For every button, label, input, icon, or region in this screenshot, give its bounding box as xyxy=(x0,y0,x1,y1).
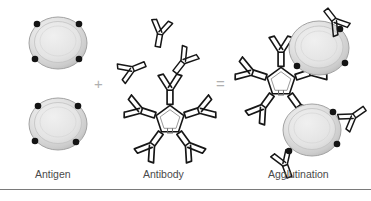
caption-antigen: Antigen xyxy=(35,168,71,180)
epitope-dot xyxy=(32,138,39,145)
epitope-dot xyxy=(76,21,83,28)
epitope-dot xyxy=(35,103,42,110)
epitope-dot xyxy=(334,141,341,148)
igm-pentamer xyxy=(123,74,218,164)
epitope-dot xyxy=(32,56,39,63)
epitope-dot xyxy=(330,109,337,116)
epitope-dot xyxy=(286,148,293,155)
bound-antibody xyxy=(336,100,370,133)
bottom-divider xyxy=(0,189,371,190)
agglutination-panel xyxy=(234,3,371,181)
epitope-dot xyxy=(342,60,349,67)
antigen-cell xyxy=(29,17,87,69)
epitope-dot xyxy=(294,63,301,70)
free-antibody xyxy=(147,18,173,48)
agglutinated-cell xyxy=(283,104,341,156)
agglutinated-cell xyxy=(289,21,349,75)
epitope-dot xyxy=(73,139,80,146)
epitope-dot xyxy=(75,103,82,110)
caption-antibody: Antibody xyxy=(143,168,184,180)
caption-agglutination: Agglutination xyxy=(268,168,329,180)
epitope-dot xyxy=(76,56,83,63)
free-antibody xyxy=(167,44,200,78)
agglutination-figure: + = Antigen Antibody Agglutination xyxy=(0,0,371,201)
plus-operator: + xyxy=(94,76,103,91)
epitope-dot xyxy=(34,21,41,28)
free-antibody xyxy=(116,54,149,84)
antigen-panel xyxy=(29,17,87,150)
equals-operator: = xyxy=(216,76,225,91)
antigen-cell xyxy=(29,98,87,150)
antibody-panel xyxy=(116,18,217,164)
